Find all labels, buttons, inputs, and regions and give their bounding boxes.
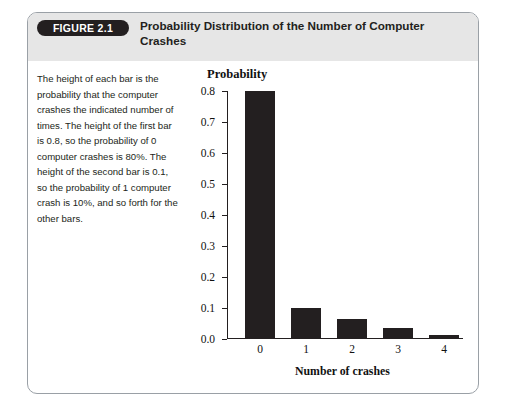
y-tick-label: 0.2 xyxy=(201,271,215,283)
figure-caption: The height of each bar is the probabilit… xyxy=(37,71,179,226)
y-tick-label: 0.7 xyxy=(201,116,215,128)
y-tick: 0.6 xyxy=(222,153,227,154)
x-tick-label: 3 xyxy=(395,343,401,355)
bar-chart: Probability 0.00.10.20.30.40.50.60.70.8 … xyxy=(183,67,473,387)
bar xyxy=(429,335,459,339)
y-axis-line xyxy=(227,91,228,339)
bar xyxy=(291,308,321,339)
plot-area: 0.00.10.20.30.40.50.60.70.8 01234 xyxy=(227,91,463,358)
y-tick-label: 0.8 xyxy=(201,85,215,97)
y-tick-label: 0.1 xyxy=(201,302,215,314)
y-axis-title: Probability xyxy=(207,67,267,82)
y-tick: 0.7 xyxy=(222,122,227,123)
figure-header: FIGURE 2.1 Probability Distribution of t… xyxy=(28,13,478,61)
figure-card: FIGURE 2.1 Probability Distribution of t… xyxy=(27,12,479,394)
y-tick-label: 0.6 xyxy=(201,147,215,159)
x-axis-title: Number of crashes xyxy=(295,364,390,379)
y-tick-label: 0.3 xyxy=(201,240,215,252)
x-tick-label: 0 xyxy=(257,343,263,355)
bar xyxy=(337,319,367,339)
y-tick-label: 0.0 xyxy=(201,333,215,345)
y-tick: 0.5 xyxy=(222,184,227,185)
bar xyxy=(245,91,275,339)
figure-number-badge: FIGURE 2.1 xyxy=(37,20,129,36)
x-tick-label: 1 xyxy=(303,343,309,355)
y-tick: 0.8 xyxy=(222,91,227,92)
y-tick-label: 0.5 xyxy=(201,178,215,190)
y-tick: 0.3 xyxy=(222,246,227,247)
y-tick: 0.2 xyxy=(222,277,227,278)
x-tick-label: 4 xyxy=(441,343,447,355)
y-tick: 0.0 xyxy=(222,339,227,340)
x-tick-label: 2 xyxy=(349,343,355,355)
bar xyxy=(383,328,413,339)
figure-title: Probability Distribution of the Number o… xyxy=(140,18,460,48)
y-tick: 0.1 xyxy=(222,308,227,309)
y-tick: 0.4 xyxy=(222,215,227,216)
y-tick-label: 0.4 xyxy=(201,209,215,221)
